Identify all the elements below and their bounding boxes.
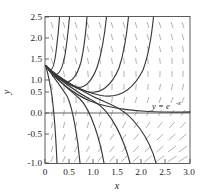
x-tick-label-3-0: 3.0 — [183, 167, 195, 177]
annotation-exponent: -x — [176, 99, 181, 106]
x-axis-title: x — [114, 180, 120, 191]
x-tick-labels: 0 0.5 1.0 1.5 2.0 2.5 3.0 — [43, 167, 195, 177]
y-tick-label-0-5: 0.5 — [31, 87, 43, 97]
y-tick-label-2-0: 2.0 — [31, 33, 43, 43]
x-tick-label-1-0: 1.0 — [87, 167, 99, 177]
solution-curve-2 — [46, 17, 70, 75]
x-tick-label-0: 0 — [43, 167, 48, 177]
solution-curves-upward — [46, 17, 154, 96]
curve-annotation: y = e -x — [151, 99, 181, 111]
y-axis-title: y — [1, 89, 12, 95]
x-tick-label-1-5: 1.5 — [111, 167, 123, 177]
solution-curve-5 — [46, 17, 129, 92]
figure-container: 2.5 2.0 1.5 1.0 0.5 0.0 -0.5 -1.0 0 0.5 … — [0, 0, 205, 193]
solution-curves-downward — [46, 66, 157, 164]
y-tick-label-1-5: 1.5 — [31, 54, 43, 64]
annotation-base: y = e — [151, 101, 170, 111]
y-tick-label-2-5: 2.5 — [31, 12, 43, 22]
y-tick-label-0-0: 0.0 — [31, 108, 43, 118]
direction-field-chart: 2.5 2.0 1.5 1.0 0.5 0.0 -0.5 -1.0 0 0.5 … — [0, 0, 205, 193]
y-axis-ticks — [45, 17, 49, 163]
solution-curve-6 — [46, 17, 154, 96]
x-tick-label-2-5: 2.5 — [159, 167, 171, 177]
x-tick-label-2-0: 2.0 — [135, 167, 147, 177]
y-tick-label-neg-1-0: -1.0 — [27, 158, 42, 168]
x-tick-label-0-5: 0.5 — [63, 167, 75, 177]
y-tick-labels: 2.5 2.0 1.5 1.0 0.5 0.0 -0.5 -1.0 — [27, 12, 42, 168]
y-tick-label-1-0: 1.0 — [31, 75, 43, 85]
y-tick-label-neg-0-5: -0.5 — [27, 129, 42, 139]
